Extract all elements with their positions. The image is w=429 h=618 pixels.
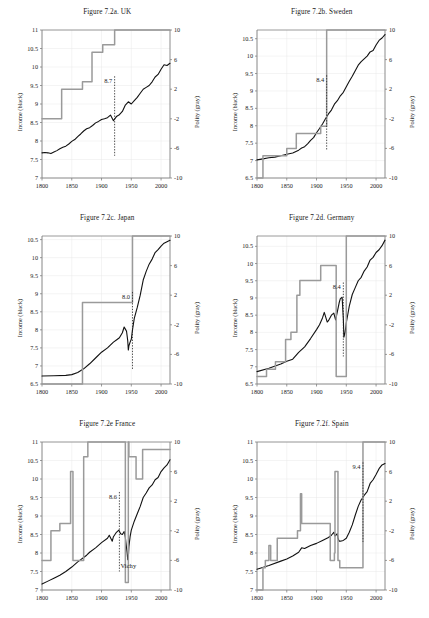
y2-tick-label: -6 [174, 556, 179, 563]
x-tick-label: 2000 [155, 594, 167, 601]
income-series-line [42, 240, 170, 376]
y-tick-label: 7.5 [245, 346, 253, 353]
y2-tick-label: 2 [389, 85, 392, 92]
figure-sheet: Figure 7.2a. UKIncome (black)Polity (gra… [0, 0, 429, 618]
panel-title: Figure 7.2d. Germany [215, 214, 429, 222]
y-tick-label: 9.5 [30, 272, 38, 279]
chart-svg: 6.577.588.599.51010.5-10-6-2261018001850… [215, 224, 429, 412]
annotation-value-label: 8.6 [109, 493, 117, 500]
panel-title: Figure 7.2e France [0, 420, 215, 428]
annotation-value-label: 8.7 [104, 77, 113, 84]
x-tick-label: 1900 [95, 388, 107, 395]
y-tick-label: 8 [35, 549, 38, 556]
panel-title: Figure 7.2c. Japan [0, 214, 215, 222]
y-tick-label: 9 [35, 100, 38, 107]
y-tick-label: 7.5 [30, 156, 38, 163]
y2-tick-label: 6 [174, 262, 177, 269]
y-tick-label: 7.5 [30, 568, 38, 575]
y2-tick-label: 2 [174, 291, 177, 298]
y2-tick-label: -6 [389, 556, 394, 563]
y-tick-label: 9.5 [245, 494, 253, 501]
annotation-value-label: 8.4 [332, 283, 341, 290]
y2-tick-label: 2 [389, 291, 392, 298]
y-tick-label: 6.5 [245, 380, 253, 387]
y2-tick-label: 10 [174, 26, 180, 33]
x-tick-label: 1850 [66, 388, 78, 395]
y-tick-label: 10 [246, 475, 252, 482]
y-tick-label: 6.5 [245, 174, 253, 181]
y-tick-label: 10.5 [242, 242, 253, 249]
y-tick-label: 10 [246, 52, 252, 59]
y-tick-label: 10 [32, 63, 38, 70]
y-tick-label: 8 [35, 326, 38, 333]
y-tick-label: 9 [249, 294, 252, 301]
y-tick-label: 7 [249, 363, 252, 370]
y-tick-label: 7 [35, 362, 38, 369]
x-tick-label: 1800 [250, 182, 262, 189]
y2-tick-label: -10 [389, 586, 397, 593]
y-tick-label: 8 [249, 328, 252, 335]
y-axis-label-left: Income (black) [16, 299, 23, 337]
y2-tick-label: 10 [174, 438, 180, 445]
chart-panel-1: Figure 7.2b. SwedenIncome (black)Polity … [215, 0, 429, 206]
y-tick-label: 11 [247, 438, 253, 445]
annotation-value-label: 8.0 [122, 293, 130, 300]
x-tick-label: 1950 [340, 388, 352, 395]
y2-tick-label: 6 [389, 56, 392, 63]
y-tick-label: 10 [32, 254, 38, 261]
y-tick-label: 7 [249, 157, 252, 164]
chart-panel-2: Figure 7.2c. JapanIncome (black)Polity (… [0, 206, 215, 412]
y-tick-label: 7.5 [30, 344, 38, 351]
chart-svg: 6.577.588.599.51010.5-10-6-2261018001850… [0, 224, 215, 412]
x-tick-label: 1800 [250, 388, 262, 395]
y-tick-label: 9 [35, 290, 38, 297]
y2-tick-label: 10 [174, 232, 180, 239]
income-series-line [257, 240, 385, 371]
plot-area: Income (black)Polity (gray)6.577.588.599… [0, 224, 215, 412]
x-tick-label: 1900 [310, 594, 322, 601]
y2-tick-label: 2 [389, 497, 392, 504]
y2-tick-label: -10 [174, 586, 182, 593]
x-tick-label: 1950 [340, 594, 352, 601]
y-tick-label: 7 [35, 586, 38, 593]
y-tick-label: 8 [249, 122, 252, 129]
plot-area: Income (black)Polity (gray)77.588.599.51… [0, 430, 215, 618]
plot-area: Income (black)Polity (gray)6.577.588.599… [215, 224, 429, 412]
y-tick-label: 9 [249, 512, 252, 519]
y-tick-label: 7 [35, 174, 38, 181]
y2-tick-label: -6 [389, 350, 394, 357]
chart-svg: 77.588.599.51010.511-10-6-22610180018501… [0, 18, 215, 206]
y-tick-label: 9 [35, 512, 38, 519]
y2-tick-label: 10 [389, 232, 395, 239]
x-tick-label: 1800 [250, 594, 262, 601]
y2-tick-label: 6 [174, 468, 177, 475]
y2-tick-label: -10 [174, 174, 182, 181]
chart-panel-3: Figure 7.2d. GermanyIncome (black)Polity… [215, 206, 429, 412]
x-tick-label: 2000 [369, 182, 381, 189]
y2-tick-label: 6 [389, 262, 392, 269]
y-tick-label: 10.5 [242, 457, 253, 464]
polity-series-line [42, 236, 170, 384]
panel-title: Figure 7.2f. Spain [215, 420, 429, 428]
y-tick-label: 8.5 [245, 104, 253, 111]
x-tick-label: 1800 [36, 182, 48, 189]
y-axis-label-left: Income (black) [230, 299, 237, 337]
y-tick-label: 9.5 [245, 277, 253, 284]
chart-panel-0: Figure 7.2a. UKIncome (black)Polity (gra… [0, 0, 215, 206]
panel-title: Figure 7.2a. UK [0, 8, 215, 16]
y2-tick-label: -2 [389, 527, 394, 534]
chart-panel-4: Figure 7.2e FranceIncome (black)Polity (… [0, 412, 215, 618]
plot-area: Income (black)Polity (gray)6.577.588.599… [215, 18, 429, 206]
x-tick-label: 1900 [95, 182, 107, 189]
y-axis-label-left: Income (black) [230, 505, 237, 543]
plot-area: Income (black)Polity (gray)77.588.599.51… [0, 18, 215, 206]
y2-tick-label: -2 [174, 321, 179, 328]
y-tick-label: 10.5 [27, 45, 38, 52]
x-tick-label: 1900 [310, 182, 322, 189]
y-tick-label: 9 [249, 87, 252, 94]
x-tick-label: 1850 [280, 594, 292, 601]
y2-tick-label: 2 [174, 85, 177, 92]
y-tick-label: 6.5 [30, 380, 38, 387]
chart-svg: 77.588.599.51010.511-10-6-22610180018501… [0, 430, 215, 618]
y-tick-label: 7.5 [245, 568, 253, 575]
